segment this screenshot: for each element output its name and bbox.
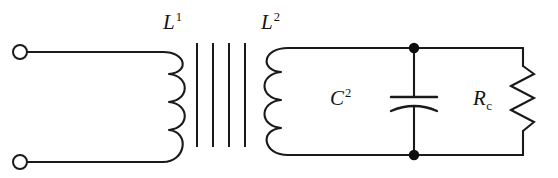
input-terminal-top	[13, 45, 27, 59]
input-terminal-bottom	[13, 155, 27, 169]
label-secondary-inductor: L2	[261, 12, 280, 33]
label-C2-superscript: 2	[345, 86, 351, 100]
secondary-coil-L2	[265, 48, 289, 155]
label-capacitor: C2	[330, 88, 351, 109]
circuit-diagram: L1 L2 C2 Rc	[0, 0, 558, 178]
label-Rc-symbol: R	[473, 86, 486, 110]
label-L1-symbol: L	[163, 10, 175, 34]
label-resistor: Rc	[473, 88, 492, 109]
primary-coil-L1	[163, 52, 185, 162]
resistor-Rc-zigzag	[511, 66, 534, 131]
junction-dot-bottom	[409, 150, 419, 160]
label-L2-superscript: 2	[274, 10, 280, 24]
junction-dot-top	[409, 43, 419, 53]
label-L1-superscript: 1	[176, 10, 182, 24]
label-Rc-subscript: c	[486, 98, 492, 113]
label-L2-symbol: L	[261, 10, 273, 34]
label-primary-inductor: L1	[163, 12, 182, 33]
label-C2-symbol: C	[330, 86, 344, 110]
